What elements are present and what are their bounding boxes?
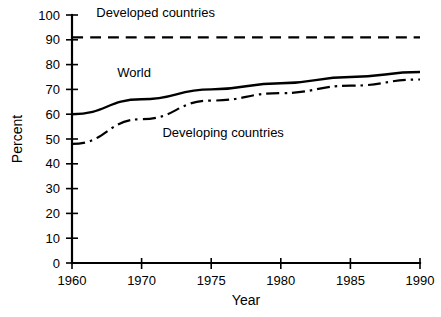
y-tick-label: 60 xyxy=(46,107,60,122)
y-tick-label: 100 xyxy=(38,8,60,23)
y-axis-title: Percent xyxy=(9,115,25,163)
x-axis-title: Year xyxy=(232,292,261,308)
y-tick-label: 50 xyxy=(46,132,60,147)
x-tick-label: 1980 xyxy=(266,273,295,288)
y-tick-label: 10 xyxy=(46,231,60,246)
y-tick-label: 90 xyxy=(46,32,60,47)
annotation-label: Developing countries xyxy=(162,125,284,140)
series-annotations: Developed countriesWorldDeveloping count… xyxy=(96,5,284,139)
y-tick-label: 70 xyxy=(46,82,60,97)
line-chart: 0102030405060708090100 19601970197519801… xyxy=(0,0,441,317)
x-axis-tick-labels: 196019701975198019851990 xyxy=(58,273,435,288)
y-tick-label: 80 xyxy=(46,57,60,72)
x-tick-label: 1990 xyxy=(406,273,435,288)
chart-container: 0102030405060708090100 19601970197519801… xyxy=(0,0,441,317)
annotation-label: World xyxy=(117,65,151,80)
annotation-label: Developed countries xyxy=(96,5,215,20)
x-tick-label: 1960 xyxy=(58,273,87,288)
y-tick-label: 40 xyxy=(46,156,60,171)
y-tick-label: 20 xyxy=(46,206,60,221)
x-tick-label: 1985 xyxy=(336,273,365,288)
x-tick-label: 1975 xyxy=(197,273,226,288)
y-axis-tick-labels: 0102030405060708090100 xyxy=(38,8,60,271)
x-tick-label: 1970 xyxy=(127,273,156,288)
y-tick-label: 30 xyxy=(46,181,60,196)
y-tick-label: 0 xyxy=(53,256,60,271)
